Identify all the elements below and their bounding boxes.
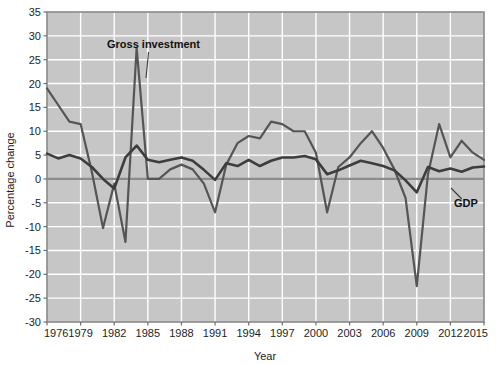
x-tick-label: 1976 — [44, 327, 68, 339]
y-tick-label: -5 — [31, 197, 41, 209]
y-tick-label: -20 — [25, 268, 41, 280]
x-tick-label: 2015 — [464, 327, 488, 339]
y-tick-label: 35 — [29, 6, 41, 18]
x-tick-label: 1988 — [169, 327, 193, 339]
line-chart-figure: 35302520151050-5-10-15-20-25-30 19761979… — [0, 0, 498, 365]
annotation-label-gross-investment: Gross investment — [107, 38, 200, 50]
x-tick-label: 2000 — [304, 327, 328, 339]
y-tick-label: 15 — [29, 101, 41, 113]
x-tick-label: 1979 — [68, 327, 92, 339]
x-tick-label: 1997 — [270, 327, 294, 339]
y-tick-label: 10 — [29, 125, 41, 137]
x-tick-label: 1985 — [136, 327, 160, 339]
y-tick-label: 30 — [29, 30, 41, 42]
x-tick-label: 2012 — [438, 327, 462, 339]
chart-container: 35302520151050-5-10-15-20-25-30 19761979… — [0, 0, 498, 365]
y-tick-label: 20 — [29, 78, 41, 90]
y-tick-label: 0 — [35, 173, 41, 185]
x-tick-label: 2003 — [337, 327, 361, 339]
y-tick-label: -15 — [25, 244, 41, 256]
x-axis-title: Year — [254, 350, 277, 362]
y-tick-label: -25 — [25, 292, 41, 304]
x-tick-label: 1991 — [203, 327, 227, 339]
x-tick-label: 1994 — [236, 327, 260, 339]
y-tick-label: 25 — [29, 54, 41, 66]
y-tick-label: 5 — [35, 149, 41, 161]
y-axis-title: Percentage change — [4, 132, 16, 227]
x-tick-label: 1982 — [102, 327, 126, 339]
y-tick-label: -30 — [25, 316, 41, 328]
x-tick-label: 2006 — [371, 327, 395, 339]
annotation-label-gdp: GDP — [454, 197, 478, 209]
x-tick-label: 2009 — [405, 327, 429, 339]
y-tick-label: -10 — [25, 221, 41, 233]
